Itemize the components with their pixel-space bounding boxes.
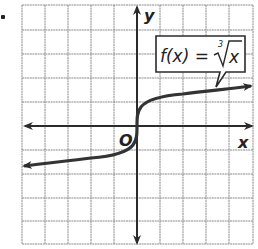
origin-label: O (119, 131, 133, 150)
function-label-callout: f(x) = 3 x (156, 36, 245, 87)
cube-root-curve (137, 86, 251, 126)
function-lhs: f(x) = (160, 46, 209, 66)
coordinate-graph: y x O f(x) = 3 x (0, 0, 258, 249)
radicand: x (228, 47, 240, 67)
y-axis-label: y (144, 6, 155, 25)
radical-index: 3 (218, 40, 223, 49)
x-axis-label: x (237, 133, 249, 152)
